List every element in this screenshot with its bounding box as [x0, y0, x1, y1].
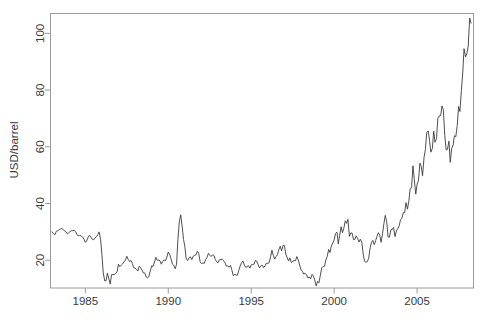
oil-price-line-chart: 20406080100 19851990199520002005 USD/bar… — [0, 0, 487, 327]
x-tick-label: 1985 — [73, 295, 99, 307]
y-tick-label: 40 — [35, 197, 47, 210]
y-tick-label: 80 — [35, 84, 47, 97]
chart-background — [0, 0, 487, 327]
y-tick-label: 60 — [35, 140, 47, 153]
y-tick-label: 100 — [35, 24, 47, 43]
chart-figure: 20406080100 19851990199520002005 USD/bar… — [0, 0, 487, 327]
x-tick-label: 1990 — [155, 295, 181, 307]
x-tick-label: 1995 — [238, 295, 264, 307]
y-axis-title: USD/barrel — [8, 122, 20, 179]
x-tick-label: 2000 — [321, 295, 347, 307]
x-tick-label: 2005 — [404, 295, 430, 307]
y-tick-label: 20 — [35, 254, 47, 267]
